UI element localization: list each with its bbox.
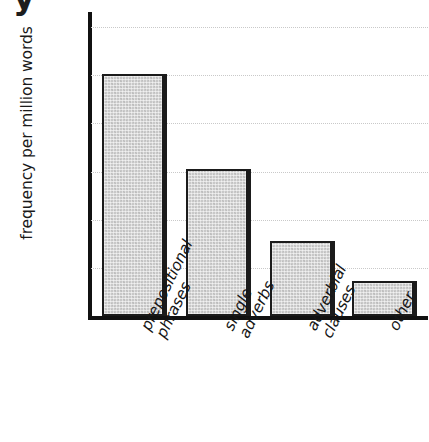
gridline-60000 [91, 27, 428, 28]
plot-area: 0100002000030000400005000060000 [90, 12, 428, 316]
bar [102, 74, 164, 316]
bar-chart-figure: frequency per million words 010000200003… [0, 0, 429, 442]
x-axis-tick-labels: prepositionalphrasessingleadverbsadverbi… [90, 326, 428, 442]
y-axis-title: frequency per million words [18, 13, 36, 253]
